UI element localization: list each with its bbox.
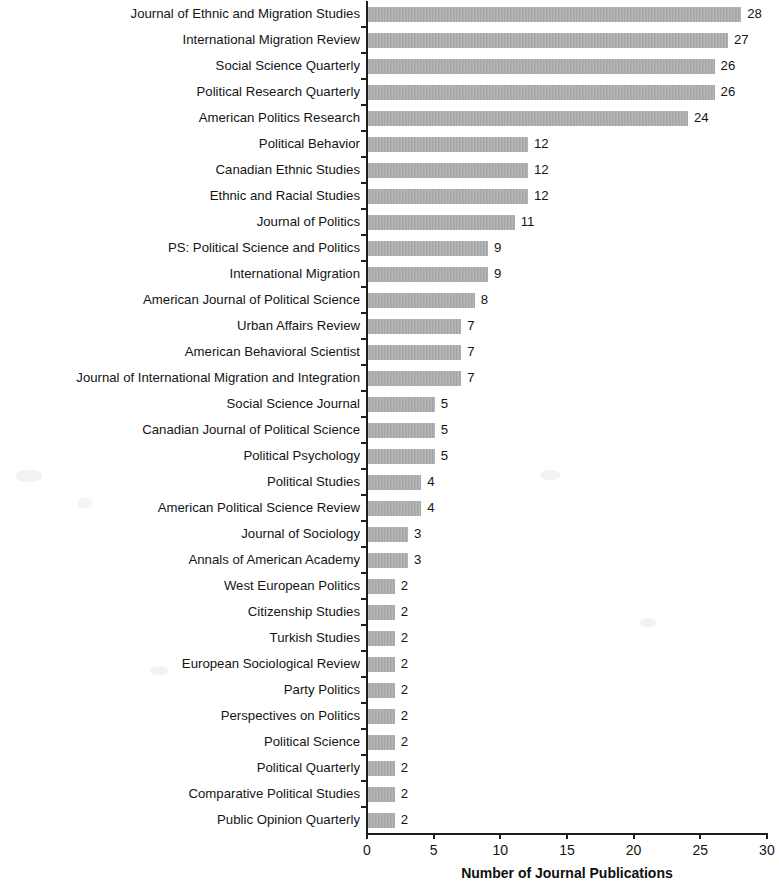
bar-container: 2	[368, 781, 408, 807]
bar-value-label: 2	[401, 755, 408, 781]
bar-container: 9	[368, 235, 501, 261]
bar	[368, 241, 488, 256]
y-axis-tick	[361, 234, 366, 236]
bar	[368, 397, 435, 412]
bar-row: Political Quarterly2	[0, 755, 779, 781]
bar-category-label: Journal of Ethnic and Migration Studies	[131, 1, 360, 27]
bar-value-label: 7	[467, 339, 474, 365]
bar-category-label: American Politics Research	[199, 105, 360, 131]
y-axis-tick	[361, 104, 366, 106]
bar	[368, 761, 395, 776]
bar-row: Social Science Journal5	[0, 391, 779, 417]
bar-category-label: Canadian Ethnic Studies	[216, 157, 360, 183]
bar-value-label: 4	[427, 495, 434, 521]
bar-value-label: 5	[441, 443, 448, 469]
bar-category-label: Perspectives on Politics	[221, 703, 360, 729]
y-axis-tick	[361, 546, 366, 548]
x-axis-tick	[433, 833, 435, 839]
bar	[368, 579, 395, 594]
y-axis-tick	[361, 208, 366, 210]
bar-row: Political Research Quarterly26	[0, 79, 779, 105]
x-axis-tick	[699, 833, 701, 839]
bar-container: 2	[368, 651, 408, 677]
bar-category-label: Public Opinion Quarterly	[217, 807, 360, 833]
bar-row: European Sociological Review2	[0, 651, 779, 677]
bar	[368, 527, 408, 542]
bar	[368, 293, 475, 308]
bar-category-label: Canadian Journal of Political Science	[142, 417, 360, 443]
bar-row: Canadian Journal of Political Science5	[0, 417, 779, 443]
bar-row: Turkish Studies2	[0, 625, 779, 651]
bar	[368, 7, 741, 22]
bar-container: 2	[368, 677, 408, 703]
bar-container: 2	[368, 703, 408, 729]
bar-row: Perspectives on Politics2	[0, 703, 779, 729]
bar	[368, 475, 421, 490]
y-axis-tick	[361, 130, 366, 132]
bar-container: 24	[368, 105, 709, 131]
bar-value-label: 2	[401, 781, 408, 807]
bar-category-label: Social Science Journal	[227, 391, 360, 417]
bar-row: Journal of Sociology3	[0, 521, 779, 547]
bar	[368, 85, 715, 100]
bar-value-label: 26	[721, 79, 736, 105]
y-axis-tick	[361, 390, 366, 392]
y-axis-tick	[361, 442, 366, 444]
y-axis-tick	[361, 26, 366, 28]
bar-row: American Behavioral Scientist7	[0, 339, 779, 365]
bar-value-label: 3	[414, 547, 421, 573]
bar-category-label: Citizenship Studies	[248, 599, 360, 625]
bar	[368, 137, 528, 152]
bar	[368, 501, 421, 516]
x-axis-title: Number of Journal Publications	[366, 865, 768, 881]
y-axis-tick	[361, 780, 366, 782]
bar-category-label: Ethnic and Racial Studies	[210, 183, 360, 209]
bar-row: Canadian Ethnic Studies12	[0, 157, 779, 183]
bar	[368, 371, 461, 386]
bar-row: American Political Science Review4	[0, 495, 779, 521]
bar-row: Political Psychology5	[0, 443, 779, 469]
y-axis-tick	[361, 286, 366, 288]
bar-row: American Journal of Political Science8	[0, 287, 779, 313]
bar-container: 2	[368, 729, 408, 755]
bar	[368, 111, 688, 126]
y-axis-tick	[361, 78, 366, 80]
bar-category-label: PS: Political Science and Politics	[168, 235, 360, 261]
bar-container: 7	[368, 339, 475, 365]
y-axis-tick	[361, 702, 366, 704]
bar-category-label: Political Quarterly	[257, 755, 360, 781]
y-axis-tick	[361, 312, 366, 314]
x-axis-tick	[366, 833, 368, 839]
bar-category-label: West European Politics	[224, 573, 360, 599]
bar-category-label: American Political Science Review	[158, 495, 360, 521]
bar-row: Urban Affairs Review7	[0, 313, 779, 339]
bar-container: 9	[368, 261, 501, 287]
y-axis-tick	[361, 806, 366, 808]
bar-container: 7	[368, 313, 475, 339]
x-axis-tick-label: 5	[414, 843, 454, 857]
bar	[368, 163, 528, 178]
y-axis-tick	[361, 624, 366, 626]
y-axis-tick	[361, 676, 366, 678]
bar-value-label: 27	[734, 27, 749, 53]
y-axis-tick	[361, 468, 366, 470]
y-axis-line	[366, 1, 368, 833]
bar-row: Ethnic and Racial Studies12	[0, 183, 779, 209]
bar-value-label: 11	[521, 209, 535, 235]
bar-row: International Migration Review27	[0, 27, 779, 53]
bar-row: Political Behavior12	[0, 131, 779, 157]
x-axis-tick-label: 15	[547, 843, 587, 857]
bar	[368, 33, 728, 48]
bar-value-label: 2	[401, 703, 408, 729]
bar-category-label: International Migration	[230, 261, 360, 287]
y-axis-tick	[361, 754, 366, 756]
y-axis-tick	[361, 598, 366, 600]
bar-category-label: Journal of Politics	[257, 209, 360, 235]
y-axis-tick	[361, 650, 366, 652]
bar-value-label: 4	[427, 469, 434, 495]
bar	[368, 423, 435, 438]
y-axis-tick	[361, 416, 366, 418]
bar-container: 3	[368, 547, 421, 573]
bar	[368, 787, 395, 802]
